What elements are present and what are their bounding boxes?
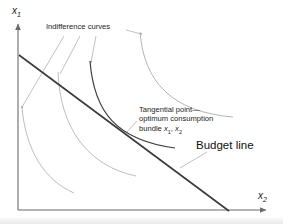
leader-lines [22,30,207,168]
leader-to-curve-1 [22,36,64,107]
annotation-budget-line: Budget line [196,139,254,151]
figure-canvas: x1 x2 Indifference curves Tangential poi… [0,0,283,224]
leader-to-curve-2 [60,36,80,74]
axis-label-x1: x1 [12,5,21,18]
indifference-curve-2 [58,72,136,176]
annotation-indifference-curves: Indifference curves [46,22,110,31]
leader-budget [180,152,207,168]
tangential-line-1: Tangential point— [139,105,213,114]
tangential-line-3: bundle x1, x2 [139,124,213,137]
leader-to-curve-3 [91,36,96,62]
leader-to-curve-4 [126,30,141,34]
annotation-tangential-point: Tangential point— optimum consumption bu… [139,105,213,137]
dot-curve-1 [21,106,23,108]
axis-label-x2: x2 [258,190,267,203]
indifference-curve-1 [22,108,74,193]
leader-tangency [126,121,137,133]
footer-band [0,217,283,224]
tangential-line-2: optimum consumption [139,114,213,123]
